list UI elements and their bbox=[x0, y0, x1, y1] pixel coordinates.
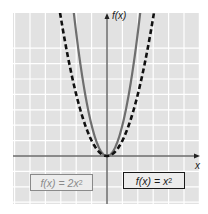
y-axis-label: f(x) bbox=[112, 10, 126, 21]
legend-2x-squared: f(x) = 2x2 bbox=[30, 174, 93, 191]
legend-2x-squared-exponent: 2 bbox=[79, 179, 83, 186]
legend-x-squared: f(x) = x2 bbox=[123, 172, 185, 189]
legend-x-squared-exponent: 2 bbox=[168, 177, 172, 184]
legend-x-squared-text: f(x) = x bbox=[136, 175, 168, 187]
x-axis-label: x bbox=[195, 160, 200, 171]
legend-2x-squared-text: f(x) = 2x bbox=[40, 177, 78, 189]
